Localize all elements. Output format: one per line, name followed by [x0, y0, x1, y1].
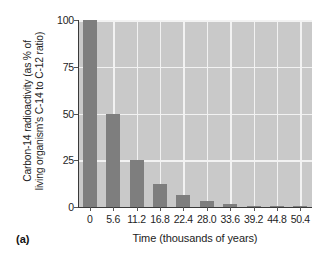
y-axis-line: [78, 20, 79, 208]
x-axis-tick-mark: [207, 207, 208, 211]
y-axis-tick-mark: [74, 67, 78, 68]
y-axis-tick-label: 0: [48, 201, 74, 213]
y-axis-tick-label: 100: [48, 14, 74, 26]
y-axis-tick-mark: [74, 207, 78, 208]
y-axis-tick-label: 50: [48, 108, 74, 120]
bar: [153, 184, 167, 207]
y-axis-tick-mark: [74, 20, 78, 21]
bar: [130, 160, 144, 207]
x-axis-tick-label: 50.4: [280, 213, 320, 225]
x-axis-tick-mark: [254, 207, 255, 211]
bar: [176, 195, 190, 207]
x-axis-title: Time (thousands of years): [78, 232, 312, 244]
x-axis-tick-mark: [277, 207, 278, 211]
y-axis-title-line1: Carbon-14 radioactivity (as % of: [22, 40, 34, 182]
x-axis-tick-mark: [230, 207, 231, 211]
x-axis-tick-mark: [160, 207, 161, 211]
plot-area: [78, 20, 312, 207]
y-axis-tick-mark: [74, 160, 78, 161]
y-axis-tick-mark: [74, 114, 78, 115]
x-axis-tick-mark: [300, 207, 301, 211]
gridline-vertical: [183, 20, 185, 207]
gridline-vertical: [160, 20, 162, 207]
panel-label: (a): [16, 233, 29, 245]
bar: [106, 114, 120, 208]
bar: [83, 20, 97, 207]
x-axis-tick-mark: [137, 207, 138, 211]
carbon-14-decay-figure: Carbon-14 radioactivity (as % of living …: [0, 0, 328, 255]
gridline-vertical: [207, 20, 209, 207]
y-axis-tick-label: 75: [48, 61, 74, 73]
gridline-vertical: [230, 20, 232, 207]
y-axis-tick-label: 25: [48, 154, 74, 166]
x-axis-tick-mark: [90, 207, 91, 211]
gridline-vertical: [300, 20, 302, 207]
x-axis-tick-mark: [113, 207, 114, 211]
gridline-vertical: [277, 20, 279, 207]
x-axis-tick-mark: [183, 207, 184, 211]
gridline-vertical: [254, 20, 256, 207]
